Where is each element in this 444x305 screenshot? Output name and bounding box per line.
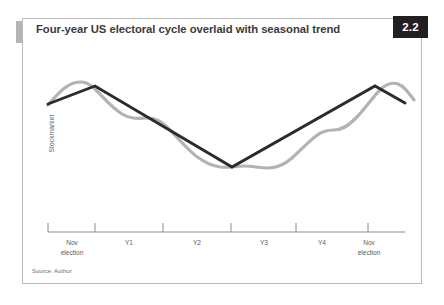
x-tick-label-y1: Y1 — [97, 238, 161, 248]
y-axis-label: Stockmarket — [48, 99, 55, 169]
chart-plot-area: Stockmarket Nov election Y1 Y2 Y3 Y4 Nov… — [22, 18, 422, 284]
figure-page: Four-year US electoral cycle overlaid wi… — [0, 0, 444, 305]
x-tick-label-y3: Y3 — [232, 238, 296, 248]
x-tick-label-y2: Y2 — [165, 238, 229, 248]
source-note: Source: Author — [32, 268, 72, 274]
x-tick-label-nov-election-end: Nov election — [337, 238, 401, 257]
series-electoral-cycle-trend-line — [48, 86, 405, 167]
x-tick-label-nov-election-start: Nov election — [40, 238, 104, 257]
